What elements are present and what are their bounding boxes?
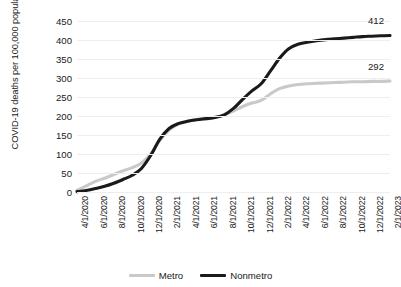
gridline-50 <box>77 173 390 174</box>
y-tick-300: 300 <box>40 73 72 84</box>
gridline-350 <box>77 59 390 60</box>
plot-area <box>77 21 390 192</box>
y-tick-450: 450 <box>40 16 72 27</box>
x-tick-4-1-2020: 4/1/2020 <box>80 196 90 228</box>
y-axis-tick-labels: 450400350300250200150100500 <box>40 0 72 287</box>
gridline-200 <box>77 116 390 117</box>
x-tick-8-1-2021: 8/1/2021 <box>228 196 238 228</box>
chart-legend: MetroNonmetro <box>0 270 401 281</box>
gridline-400 <box>77 40 390 41</box>
gridline-150 <box>77 135 390 136</box>
x-tick-6-1-2021: 6/1/2021 <box>209 196 219 228</box>
legend-item-metro[interactable]: Metro <box>129 270 184 281</box>
x-tick-6-1-2020: 6/1/2020 <box>99 196 109 228</box>
x-tick-2-1-2022: 2/1/2022 <box>283 196 293 228</box>
nonmetro-end-value-label: 412 <box>368 15 384 26</box>
y-tick-0: 0 <box>40 187 72 198</box>
gridline-300 <box>77 78 390 79</box>
y-axis-title: COVID-19 deaths per 100,000 population <box>10 0 22 156</box>
covid-deaths-line-chart: COVID-19 deaths per 100,000 population 4… <box>0 0 401 287</box>
x-tick-10-1-2022: 10/1/2022 <box>357 196 367 233</box>
x-tick-12-1-2022: 12/1/2022 <box>375 196 385 233</box>
gridline-250 <box>77 97 390 98</box>
metro-end-value-label: 292 <box>368 61 384 72</box>
y-tick-400: 400 <box>40 35 72 46</box>
y-tick-200: 200 <box>40 111 72 122</box>
gridline-100 <box>77 154 390 155</box>
y-tick-250: 250 <box>40 92 72 103</box>
legend-label-metro: Metro <box>159 270 184 281</box>
y-tick-150: 150 <box>40 130 72 141</box>
x-tick-8-1-2020: 8/1/2020 <box>117 196 127 228</box>
x-tick-10-1-2020: 10/1/2020 <box>136 196 146 233</box>
x-tick-6-1-2022: 6/1/2022 <box>320 196 330 228</box>
x-tick-4-1-2021: 4/1/2021 <box>191 196 201 228</box>
y-tick-100: 100 <box>40 149 72 160</box>
x-tick-12-1-2020: 12/1/2020 <box>154 196 164 233</box>
x-tick-2-1-2023: 2/1/2023 <box>393 196 401 228</box>
x-tick-8-1-2022: 8/1/2022 <box>338 196 348 228</box>
legend-item-nonmetro[interactable]: Nonmetro <box>200 270 272 281</box>
legend-swatch-nonmetro <box>200 274 226 277</box>
y-tick-350: 350 <box>40 54 72 65</box>
x-tick-2-1-2021: 2/1/2021 <box>172 196 182 228</box>
y-tick-50: 50 <box>40 168 72 179</box>
legend-label-nonmetro: Nonmetro <box>230 270 272 281</box>
x-axis-tick-labels: 4/1/20206/1/20208/1/202010/1/202012/1/20… <box>77 192 390 262</box>
gridline-450 <box>77 21 390 22</box>
x-tick-12-1-2021: 12/1/2021 <box>265 196 275 233</box>
x-tick-4-1-2022: 4/1/2022 <box>301 196 311 228</box>
series-lines <box>77 21 390 192</box>
legend-swatch-metro <box>129 274 155 277</box>
x-tick-10-1-2021: 10/1/2021 <box>246 196 256 233</box>
